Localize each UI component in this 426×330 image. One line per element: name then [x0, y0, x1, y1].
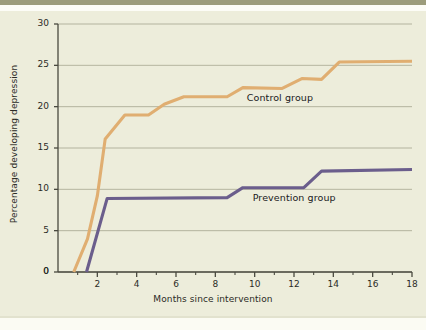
- x-tick-label: 14: [321, 279, 345, 289]
- x-tick-label: 6: [164, 279, 188, 289]
- x-tick-label: 2: [85, 279, 109, 289]
- series-line: [87, 169, 412, 272]
- series-line: [74, 61, 412, 272]
- x-tick-label: 16: [361, 279, 385, 289]
- x-axis-title: Months since intervention: [0, 294, 426, 304]
- figure-page: Percentage developing depression Months …: [0, 0, 426, 330]
- x-tick-label: 8: [203, 279, 227, 289]
- scan-artifact-bottom-margin: [0, 318, 426, 330]
- x-tick-label: 4: [125, 279, 149, 289]
- y-tick-label: 10: [27, 183, 49, 193]
- series-label: Prevention group: [253, 192, 336, 203]
- x-tick-label: 0: [27, 266, 49, 276]
- x-tick-label: 10: [243, 279, 267, 289]
- chart-figure: Percentage developing depression Months …: [0, 11, 426, 318]
- line-chart-plot: [0, 11, 426, 318]
- series-label: Control group: [247, 92, 313, 103]
- y-tick-label: 5: [27, 225, 49, 235]
- y-axis-title: Percentage developing depression: [9, 44, 19, 244]
- x-tick-label: 18: [400, 279, 424, 289]
- y-tick-label: 25: [27, 59, 49, 69]
- y-tick-label: 15: [27, 142, 49, 152]
- x-tick-label: 12: [282, 279, 306, 289]
- y-tick-label: 30: [27, 18, 49, 28]
- y-tick-label: 20: [27, 101, 49, 111]
